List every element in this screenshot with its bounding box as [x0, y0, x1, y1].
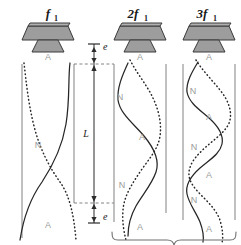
- arrow-L-down: [91, 196, 96, 202]
- node-label-1-1: N: [35, 140, 42, 150]
- harmonic-label-3: 3f: [196, 6, 210, 21]
- column-first-harmonic: f 1 A N A: [20, 6, 76, 240]
- node-label-3-3: N: [191, 195, 198, 205]
- speaker-icon-1: [22, 23, 74, 52]
- node-label-3-2: N: [191, 142, 198, 152]
- dimension-scale: e L e: [74, 41, 114, 223]
- dim-label-top-e: e: [103, 41, 108, 52]
- arrow-top-down: [91, 58, 96, 63]
- resonance-figure: f 1 A N A e L: [0, 0, 241, 245]
- standing-wave-diagram: f 1 A N A e L: [0, 0, 241, 245]
- harmonic-label-1: f: [46, 6, 52, 21]
- arrow-top-up: [91, 47, 96, 52]
- source-antinode-label-1: A: [45, 52, 51, 62]
- source-antinode-label-3: A: [206, 52, 212, 62]
- column-second-harmonic: 2f 1 A N A N A: [114, 6, 166, 240]
- wave-curve-solid-2: [118, 63, 157, 236]
- bottom-brace: [112, 232, 236, 245]
- arrow-L-up: [91, 65, 96, 71]
- antinode-label-2-1: A: [139, 132, 145, 142]
- antinode-label-3-2: A: [206, 170, 212, 180]
- harmonic-label-2: 2f: [127, 6, 141, 21]
- antinode-label-3-1: A: [206, 112, 212, 122]
- antinode-label-3-3: A: [206, 224, 212, 234]
- harmonic-subscript-2: 1: [144, 14, 148, 23]
- arrow-bottom-up: [91, 204, 96, 209]
- dim-label-bottom-e: e: [103, 211, 108, 222]
- antinode-label-1-1: A: [45, 220, 51, 230]
- arrow-bottom-down: [91, 217, 96, 222]
- node-label-3-1: N: [190, 86, 197, 96]
- wave-curve-dotted-2: [123, 60, 161, 240]
- harmonic-subscript-3: 1: [213, 14, 217, 23]
- speaker-icon-2: [114, 23, 166, 52]
- node-label-2-1: N: [117, 92, 124, 102]
- speaker-icon-3: [183, 23, 235, 52]
- source-antinode-label-2: A: [137, 52, 143, 62]
- column-third-harmonic: 3f 1 A N A N A N A: [183, 6, 235, 243]
- antinode-label-2-2: A: [137, 222, 143, 232]
- harmonic-subscript-1: 1: [54, 14, 58, 23]
- node-label-2-2: N: [119, 180, 126, 190]
- dim-label-L: L: [82, 128, 89, 139]
